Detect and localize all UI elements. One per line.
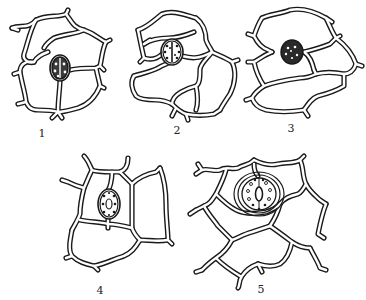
panel-4: 4: [62, 156, 172, 297]
panel-label-4: 4: [97, 284, 104, 297]
panel-label-3: 3: [288, 122, 295, 135]
stoma-icon: [98, 189, 120, 219]
panel-2: 2: [132, 12, 238, 137]
stoma-icon: [50, 55, 70, 81]
panel-3: 3: [246, 9, 362, 135]
stomata-diagram: 1 2 3: [0, 0, 366, 300]
panel-label-2: 2: [174, 124, 181, 137]
stoma-icon: [281, 40, 303, 64]
stoma-icon: [161, 39, 183, 65]
panel-label-1: 1: [39, 127, 46, 140]
panel-5: 5: [190, 156, 326, 296]
epidermal-cell-walls: [246, 9, 362, 116]
epidermal-cell-walls: [132, 12, 238, 120]
panel-label-5: 5: [258, 283, 265, 296]
stoma-icon: [242, 178, 276, 210]
panel-1: 1: [12, 10, 110, 140]
